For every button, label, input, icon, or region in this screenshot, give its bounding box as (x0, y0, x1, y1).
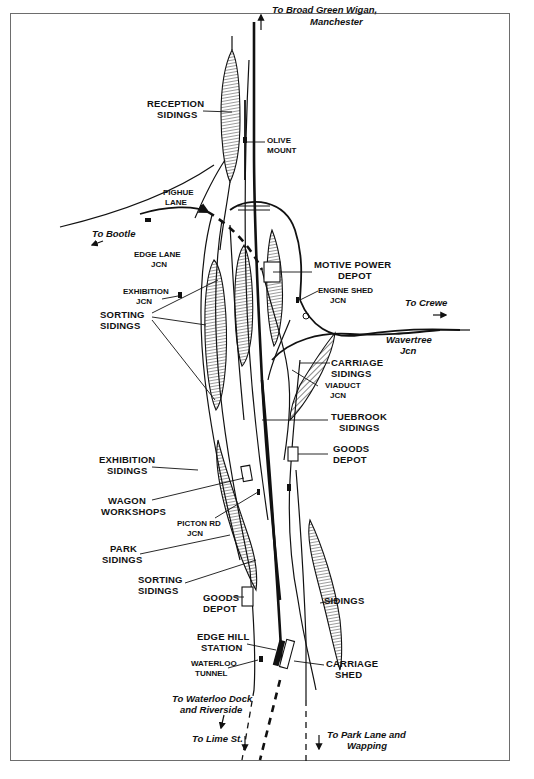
label-motive-power-depot: MOTIVE POWERDEPOT (314, 259, 391, 281)
label-engine-shed-jcn: ENGINE SHEDJCN (318, 286, 373, 305)
east-track-1 (296, 470, 306, 700)
leader-edge-hill-station (247, 644, 276, 650)
label-edge-hill-station: EDGE HILLSTATION (197, 631, 249, 653)
carriage-sidings-area (290, 333, 335, 420)
label-viaduct-jcn: VIADUCTJCN (325, 381, 361, 400)
waterloo-tunnel-box (259, 656, 263, 662)
leader-sorting-lower (185, 560, 256, 583)
label-to-broad-green: To Broad Green Wigan, (272, 4, 377, 15)
label-tuebrook-sidings: TUEBROOKSIDINGS (331, 411, 387, 433)
lime-st-dash (260, 680, 280, 760)
tuebrook-box (287, 484, 291, 491)
leader-exhibition-jcn (162, 296, 178, 299)
leader-engine-shed-jcn (300, 291, 318, 300)
label-wagon-workshops: WAGONWORKSHOPS (101, 495, 166, 517)
label-goods-depot-east: GOODSDEPOT (333, 443, 369, 465)
leader-exhibition-sidings (152, 467, 198, 470)
label-to-park-lane: To Park Lane andWapping (327, 729, 406, 751)
label-edge-lane-jcn: EDGE LANEJCN (134, 250, 181, 269)
label-pighue-lane: PIGHUELANE (163, 188, 194, 207)
olive-mount-box (243, 137, 247, 143)
exhibition-sidings-area (217, 440, 257, 590)
label-to-lime-st: To Lime St. (192, 733, 243, 744)
motive-power-depot-area (267, 230, 283, 346)
east-track-2 (298, 600, 316, 690)
label-wavertree-jcn: WavertreeJcn (386, 334, 432, 356)
label-to-crewe: To Crewe (405, 297, 448, 308)
label-to-bootle: To Bootle (92, 228, 136, 239)
label-sorting-sidings-lower: SORTINGSIDINGS (138, 574, 183, 596)
bootle-arrow-icon (92, 241, 103, 245)
edge-lane-jcn-box (145, 218, 151, 222)
edge-hill-track-diagram: To Broad Green Wigan, Manchester RECEPTI… (0, 0, 534, 779)
wagon-workshops-building (241, 465, 252, 481)
label-carriage-shed: CARRIAGESHED (326, 658, 378, 680)
label-carriage-sidings: CARRIAGESIDINGS (331, 357, 383, 379)
label-olive-mount: OLIVEMOUNT (267, 136, 296, 155)
leader-carriage-shed (294, 661, 324, 665)
label-to-waterloo-dock: To Waterloo Dockand Riverside (172, 693, 253, 715)
engine-shed-jcn-box (296, 297, 299, 303)
waterloo-dock-arrow-icon (221, 715, 224, 728)
exhibition-jcn-box (178, 292, 182, 298)
goods-depot-west-building (242, 587, 253, 606)
label-exhibition-jcn: EXHIBITIONJCN (123, 287, 169, 306)
label-waterloo-tunnel: WATERLOOTUNNEL (191, 659, 237, 678)
label-park-sidings: PARKSIDINGS (102, 543, 142, 565)
pighue-lane-box (200, 205, 204, 210)
label-goods-depot-west: GOODSDEPOT (203, 592, 239, 614)
label-sidings-east: SIDINGS (324, 595, 364, 606)
label-to-manchester: Manchester (310, 16, 364, 27)
main-line-south (262, 380, 282, 665)
label-sorting-sidings-upper: SORTINGSIDINGS (100, 309, 145, 331)
leader-park-sidings (140, 535, 230, 554)
label-exhibition-sidings: EXHIBITIONSIDINGS (99, 454, 155, 476)
label-picton-rd-jcn: PICTON RDJCN (177, 519, 221, 538)
goods-depot-east-building (288, 447, 298, 461)
label-reception-sidings: RECEPTIONSIDINGS (147, 98, 204, 120)
